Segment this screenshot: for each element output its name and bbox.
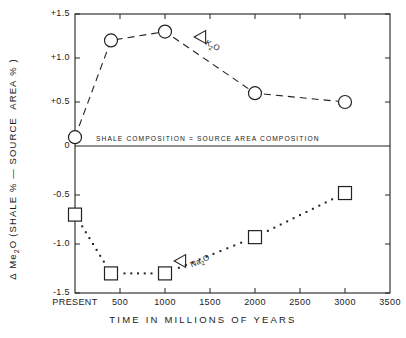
data-point-k2o (159, 25, 172, 38)
series-dot-na2o (124, 272, 126, 274)
series-dot-na2o (240, 242, 242, 244)
series-dot-na2o (137, 272, 139, 274)
series-dot-na2o (151, 272, 153, 274)
series-dot-na2o (81, 225, 83, 227)
series-dot-na2o (96, 249, 98, 251)
series-dot-na2o (178, 267, 180, 269)
series-dot-na2o (312, 208, 314, 210)
data-point-na2o (105, 267, 118, 280)
series-dot-na2o (85, 231, 87, 233)
data-point-na2o (339, 187, 352, 200)
series-dot-na2o (144, 272, 146, 274)
series-dot-na2o (92, 243, 94, 245)
y-tick-label: +1.0 (20, 52, 70, 62)
data-point-k2o (105, 34, 118, 47)
delta-triangle-na2o (174, 255, 185, 268)
series-dot-na2o (293, 217, 295, 219)
delta-triangle-k2o (194, 31, 205, 44)
x-axis-label: TIME IN MILLIONS OF YEARS (0, 314, 406, 325)
y-tick-label: -0.5 (20, 189, 70, 199)
series-dot-na2o (88, 237, 90, 239)
series-dot-na2o (331, 198, 333, 200)
y-tick-label: -1.5 (20, 287, 70, 297)
data-point-k2o (339, 96, 352, 109)
series-dot-na2o (286, 220, 288, 222)
series-dot-na2o (273, 227, 275, 229)
series-dot-na2o (318, 205, 320, 207)
chart-figure: Δ Me2O (SHALE % — SOURCE AREA % ) TIME I… (0, 0, 406, 338)
y-tick-label: +0.5 (20, 96, 70, 106)
series-dot-na2o (99, 255, 101, 257)
series-dot-na2o (305, 211, 307, 213)
data-point-k2o (69, 131, 82, 144)
series-dot-na2o (299, 214, 301, 216)
zero-line-caption: SHALE COMPOSITION = SOURCE AREA COMPOSIT… (96, 135, 320, 142)
y-tick-label: +1.5 (20, 8, 70, 18)
series-dot-na2o (212, 253, 214, 255)
data-point-k2o (249, 87, 262, 100)
series-dot-na2o (130, 272, 132, 274)
series-dot-na2o (103, 261, 105, 263)
series-dot-na2o (267, 230, 269, 232)
data-point-na2o (159, 267, 172, 280)
plot-frame (75, 14, 390, 293)
series-dot-na2o (233, 245, 235, 247)
data-point-na2o (69, 208, 82, 221)
y-tick-label: -1.0 (20, 238, 70, 248)
y-tick-label: 0 (20, 140, 70, 150)
data-point-na2o (249, 231, 262, 244)
series-dot-na2o (226, 247, 228, 249)
series-dot-na2o (325, 201, 327, 203)
x-tick-label: 3500 (350, 297, 406, 307)
series-dot-na2o (280, 224, 282, 226)
series-dot-na2o (219, 250, 221, 252)
